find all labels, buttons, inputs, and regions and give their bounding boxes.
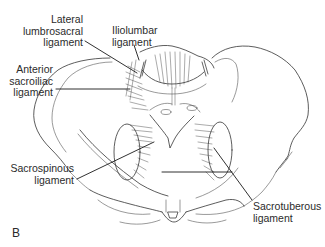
panel-letter: B: [12, 226, 20, 240]
anterior-sacroiliac-ligament-fibers: [126, 60, 148, 110]
label-iliolumbar-ligament: Iliolumbar ligament: [112, 25, 158, 48]
leader-sacrospinous: [77, 142, 154, 179]
lumbosacral-ligament-fibers: [140, 52, 208, 105]
pelvis-ligament-diagram: Lateral lumbrosacral ligament Iliolumbar…: [0, 0, 325, 247]
label-lateral-lumbosacral-ligament: Lateral lumbrosacral ligament: [20, 14, 83, 49]
pubis: [90, 190, 244, 224]
right-sacrotuberous-fibers: [195, 122, 232, 180]
leader-sacrotuberous: [214, 148, 252, 200]
label-sacrotuberous-ligament: Sacrotuberous ligament: [253, 201, 321, 224]
inguinal-band-left: [78, 130, 168, 196]
label-sacrospinous-ligament: Sacrospinous ligament: [0, 163, 74, 186]
sacrum: [138, 45, 214, 148]
label-anterior-sacroiliac-ligament: Anterior sacroiliac ligament: [0, 64, 53, 99]
